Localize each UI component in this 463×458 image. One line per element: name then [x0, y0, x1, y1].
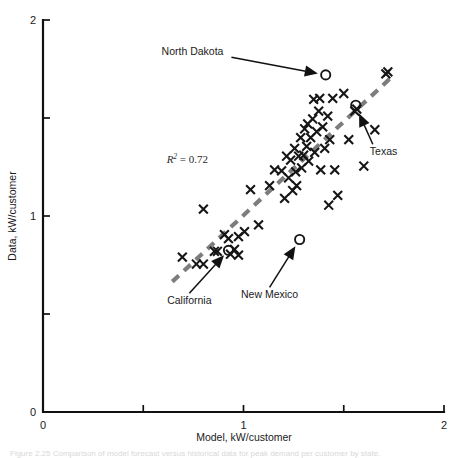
scatter-point-x	[246, 185, 255, 194]
scatter-point-x	[292, 181, 301, 190]
scatter-point-x	[296, 133, 305, 142]
scatter-markers-x	[178, 68, 392, 269]
scatter-point-x	[328, 94, 337, 103]
scatter-point-highlight	[295, 235, 304, 244]
y-axis-title: Data, kW/customer	[6, 171, 18, 261]
scatter-point-x	[199, 260, 208, 269]
texas-label: Texas	[370, 145, 397, 157]
scatter-point-x	[240, 227, 249, 236]
scatter-point-x	[330, 166, 339, 175]
scatter-point-x	[333, 191, 342, 200]
scatter-point-x	[318, 122, 327, 131]
y-tick-label: 2	[30, 14, 36, 26]
scatter-point-x	[199, 205, 208, 214]
scatter-point-x	[316, 166, 325, 175]
scatter-point-x	[323, 112, 332, 121]
new-mexico-label: New Mexico	[241, 288, 298, 300]
figure-caption: Figure 2.25 Comparison of model forecast…	[10, 449, 460, 458]
california-label: California	[167, 294, 212, 306]
scatter-point-x	[370, 125, 379, 134]
r-squared-label: R2 = 0.72	[166, 152, 208, 166]
new-mexico-arrow-shaft	[270, 256, 290, 288]
scatter-point-x	[359, 162, 368, 171]
scatter-point-x	[339, 89, 348, 98]
y-tick-label: 1	[30, 210, 36, 222]
x-tick-label: 0	[40, 419, 46, 431]
scatter-point-x	[320, 144, 329, 153]
figure-scatter-plot: 012012 R2 = 0.72North DakotaTexasCalifor…	[0, 0, 463, 458]
scatter-point-x	[314, 107, 323, 116]
new-mexico-arrow-head	[284, 246, 296, 260]
scatter-point-x	[324, 201, 333, 210]
scatter-point-x	[224, 234, 233, 243]
plot-svg: 012012 R2 = 0.72North DakotaTexasCalifor…	[0, 0, 463, 458]
north-dakota-label: North Dakota	[162, 45, 224, 57]
scatter-point-x	[286, 156, 295, 165]
north-dakota-arrow-shaft	[231, 57, 307, 71]
scatter-point-x	[280, 194, 289, 203]
x-tick-label: 1	[240, 419, 246, 431]
scatter-point-highlight	[321, 70, 330, 79]
scatter-point-x	[344, 135, 353, 144]
scatter-point-x	[304, 157, 313, 166]
scatter-point-x	[254, 220, 263, 229]
scatter-point-x	[178, 253, 187, 262]
x-tick-label: 2	[441, 419, 447, 431]
scatter-point-x	[308, 115, 317, 124]
north-dakota-arrow-head	[304, 66, 318, 77]
scatter-point-x	[315, 94, 324, 103]
annotation-group: R2 = 0.72North DakotaTexasCaliforniaNew …	[162, 45, 398, 306]
scatter-point-x	[302, 142, 311, 151]
x-axis-title: Model, kW/customer	[196, 431, 292, 443]
y-tick-label: 0	[30, 406, 36, 418]
